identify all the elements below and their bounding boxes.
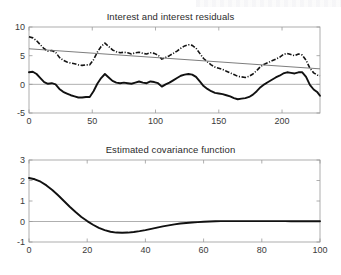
x-tick-label: 100 — [312, 245, 327, 255]
x-tick-label: 150 — [211, 116, 226, 126]
y-tick-label: -5 — [17, 108, 25, 118]
y-tick-label: 10 — [15, 22, 25, 32]
series-line-interest-residuals — [29, 72, 320, 100]
series-line-interest-rate — [29, 37, 320, 78]
x-tick-label: 100 — [148, 116, 163, 126]
x-tick-label: 80 — [257, 245, 267, 255]
x-tick-label: 50 — [87, 116, 97, 126]
x-tick-label: 0 — [26, 116, 31, 126]
y-tick-label: 2 — [20, 176, 25, 186]
x-tick-label: 20 — [82, 245, 92, 255]
x-tick-label: 0 — [26, 245, 31, 255]
chart-panel-covariance: Estimated covariance function 0204060801… — [0, 138, 341, 275]
series-line-covariance — [29, 178, 320, 233]
chart-panel-interest: Interest and interest residuals 05010015… — [0, 0, 341, 140]
y-tick-label: -1 — [17, 237, 25, 247]
chart-svg-covariance: 020406080100-10123 — [0, 138, 341, 275]
x-tick-label: 200 — [275, 116, 290, 126]
x-tick-label: 60 — [199, 245, 209, 255]
y-tick-label: 1 — [20, 196, 25, 206]
plot-frame — [29, 160, 320, 242]
x-tick-label: 40 — [140, 245, 150, 255]
plot-frame — [29, 27, 320, 113]
series-line-linear-trend — [29, 49, 320, 69]
chart-svg-interest: 050100150200-50510 — [0, 0, 341, 140]
y-tick-label: 5 — [20, 51, 25, 61]
figure-container: Interest and interest residuals 05010015… — [0, 0, 341, 275]
y-tick-label: 0 — [20, 80, 25, 90]
y-tick-label: 3 — [20, 155, 25, 165]
y-tick-label: 0 — [20, 217, 25, 227]
